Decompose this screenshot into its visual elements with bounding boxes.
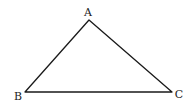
triangle-diagram: A B C bbox=[0, 0, 195, 106]
vertex-label-a: A bbox=[83, 6, 93, 19]
vertex-label-b: B bbox=[14, 90, 22, 103]
triangle-abc bbox=[25, 20, 172, 92]
vertex-label-c: C bbox=[175, 88, 183, 101]
